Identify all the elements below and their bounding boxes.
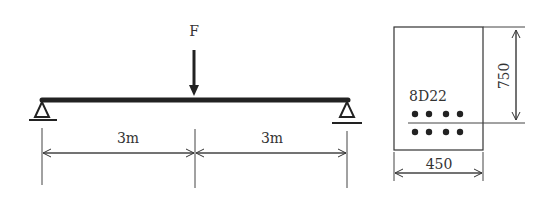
rebar-label: 8D22 (409, 88, 447, 104)
load-arrow-icon (189, 50, 199, 96)
rebar-top-row (412, 111, 463, 117)
height-label: 750 (496, 63, 512, 90)
left-support-icon (29, 102, 57, 120)
cross-section: 750 8D22 450 (394, 27, 525, 181)
rebar-bottom-row (412, 129, 463, 135)
span-left-label: 3m (117, 130, 139, 146)
width-label: 450 (426, 156, 453, 172)
load-label: F (189, 23, 199, 39)
beam-diagram: F 3m 3m 750 8D22 (0, 0, 540, 209)
right-support-icon (332, 102, 362, 123)
beam-elevation: F 3m 3m (29, 23, 362, 188)
span-right-label: 3m (261, 130, 283, 146)
